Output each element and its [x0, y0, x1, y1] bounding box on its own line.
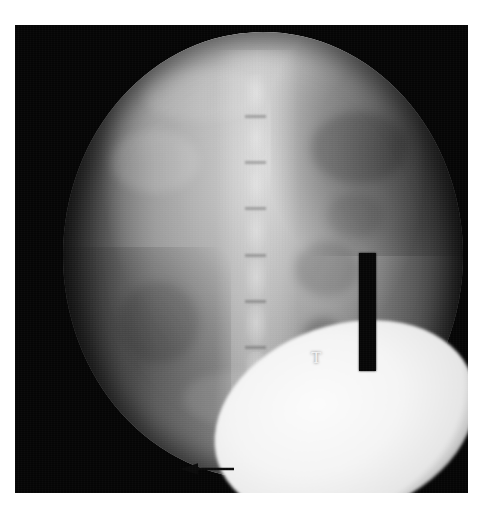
radiopaque-marker-bar — [359, 253, 376, 371]
soft-tissue-blob — [295, 242, 359, 296]
intervertebral-disc-line — [245, 161, 266, 164]
t-letter-annotation: T — [311, 349, 321, 366]
arrow-annotation-icon — [180, 462, 234, 476]
radiograph-figure: T — [0, 0, 496, 518]
vertebra-body — [246, 306, 266, 344]
vertebra-body — [246, 168, 266, 206]
vertebra-body — [246, 260, 266, 298]
soft-tissue-blob — [143, 68, 263, 122]
soft-tissue-blob — [327, 193, 383, 238]
intervertebral-disc-line — [245, 346, 266, 349]
intervertebral-disc-line — [245, 115, 266, 118]
soft-tissue-blob — [111, 130, 199, 193]
soft-tissue-blob — [119, 282, 199, 362]
soft-tissue-blob — [311, 112, 407, 184]
vertebra-body — [246, 121, 266, 159]
intervertebral-disc-line — [245, 300, 266, 303]
vertebra-body — [246, 214, 266, 252]
lower-left-shadow — [63, 247, 231, 479]
scan-frame: T — [15, 25, 468, 493]
left-arrow-icon — [180, 462, 234, 476]
intervertebral-disc-line — [245, 207, 266, 210]
intervertebral-disc-line — [245, 254, 266, 257]
